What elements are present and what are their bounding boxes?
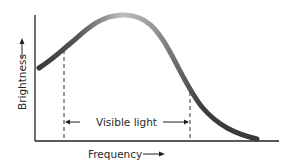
right-arrow-icon	[163, 120, 189, 125]
visible-light-label: Visible light	[96, 116, 157, 128]
x-axis-arrow-icon	[143, 152, 165, 157]
y-axis-label: Brightness	[16, 54, 28, 110]
left-arrow-icon	[65, 120, 80, 125]
spectrum-diagram: Visible light Frequency Brightness	[0, 0, 296, 167]
x-axis-label: Frequency	[88, 148, 142, 160]
